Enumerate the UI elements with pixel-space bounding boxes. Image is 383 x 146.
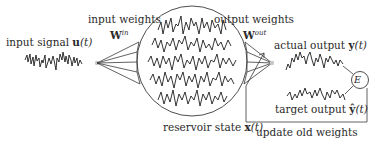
input-weight-lines <box>97 42 140 84</box>
target-output-label: target output ŷ(t) <box>275 104 368 115</box>
esn-diagram: input signal u(t) input weights Win outp… <box>0 0 383 146</box>
reservoir-state-waves <box>148 16 236 106</box>
output-weights-label: output weights <box>214 14 294 25</box>
output-node-dot <box>270 61 274 65</box>
feedback-label: update old weights <box>256 127 358 138</box>
actual-output-wave <box>286 52 343 70</box>
input-weights-symbol: Win <box>110 30 129 41</box>
input-weights-label: input weights <box>88 14 161 25</box>
reservoir-state-label: reservoir state x(t) <box>163 122 263 133</box>
target-output-wave <box>287 88 345 100</box>
output-weights-symbol: Wout <box>243 30 266 41</box>
input-signal-wave <box>25 52 82 70</box>
actual-output-label: actual output y(t) <box>274 40 367 51</box>
actual-to-error-line <box>343 66 353 74</box>
target-to-error-line <box>345 86 353 94</box>
error-node-label: E <box>354 75 361 85</box>
input-signal-label: input signal u(t) <box>6 37 92 48</box>
weight-update-arrow <box>246 53 264 86</box>
output-weight-lines <box>244 42 272 84</box>
